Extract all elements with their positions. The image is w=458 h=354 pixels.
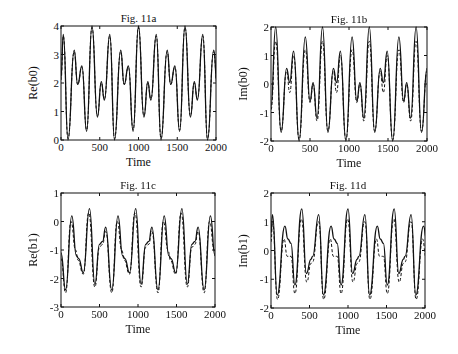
series-dashed-line (271, 219, 458, 300)
plot-area (0, 0, 458, 354)
